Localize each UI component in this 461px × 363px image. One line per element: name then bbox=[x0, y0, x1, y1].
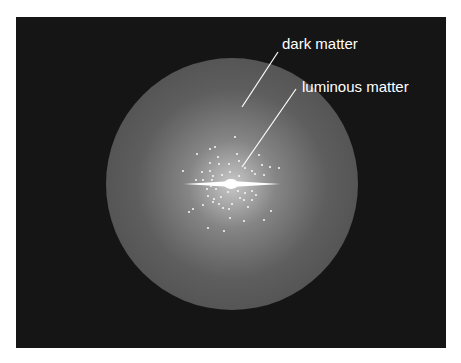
star-dot bbox=[269, 166, 271, 168]
star-dot bbox=[251, 190, 253, 192]
star-dot bbox=[255, 194, 257, 196]
star-dot bbox=[195, 179, 197, 181]
star-dot bbox=[209, 170, 211, 172]
star-dot bbox=[211, 179, 213, 181]
dark-matter-halo-diagram: dark matter luminous matter bbox=[0, 0, 461, 363]
galactic-bulge bbox=[224, 179, 238, 189]
star-dot bbox=[207, 227, 209, 229]
star-dot bbox=[236, 153, 238, 155]
star-dot bbox=[209, 148, 211, 150]
star-dot bbox=[201, 171, 203, 173]
luminous-matter-label: luminous matter bbox=[302, 78, 409, 95]
star-dot bbox=[188, 211, 190, 213]
star-dot bbox=[220, 196, 222, 198]
star-dot bbox=[251, 170, 253, 172]
star-dot bbox=[243, 220, 245, 222]
dark-matter-label: dark matter bbox=[282, 35, 358, 52]
star-dot bbox=[247, 206, 249, 208]
star-dot bbox=[218, 203, 220, 205]
star-dot bbox=[263, 219, 265, 221]
star-dot bbox=[196, 153, 198, 155]
star-dot bbox=[238, 175, 240, 177]
star-dot bbox=[214, 146, 216, 148]
star-dot bbox=[192, 208, 194, 210]
star-dot bbox=[202, 179, 204, 181]
star-dot bbox=[206, 188, 208, 190]
star-dot bbox=[212, 201, 214, 203]
star-dot bbox=[270, 210, 272, 212]
star-dot bbox=[228, 208, 230, 210]
star-dot bbox=[217, 156, 219, 158]
star-dot bbox=[238, 160, 240, 162]
star-dot bbox=[213, 198, 215, 200]
star-dot bbox=[258, 154, 260, 156]
star-dot bbox=[263, 174, 265, 176]
star-dot bbox=[182, 170, 184, 172]
star-dot bbox=[229, 217, 231, 219]
star-dot bbox=[215, 188, 217, 190]
star-dot bbox=[278, 167, 280, 169]
star-dot bbox=[254, 173, 256, 175]
star-dot bbox=[239, 197, 241, 199]
star-dot bbox=[244, 167, 246, 169]
star-dot bbox=[237, 190, 239, 192]
star-dot bbox=[234, 136, 236, 138]
star-dot bbox=[227, 191, 229, 193]
star-dot bbox=[243, 199, 245, 201]
star-dot bbox=[261, 164, 263, 166]
star-dot bbox=[212, 175, 214, 177]
star-dot bbox=[222, 207, 224, 209]
star-dot bbox=[223, 230, 225, 232]
star-dot bbox=[231, 203, 233, 205]
star-dot bbox=[221, 174, 223, 176]
star-dot bbox=[209, 162, 211, 164]
star-dot bbox=[244, 192, 246, 194]
star-dot bbox=[228, 163, 230, 165]
star-dot bbox=[251, 199, 253, 201]
star-dot bbox=[207, 195, 209, 197]
star-dot bbox=[202, 204, 204, 206]
star-dot bbox=[218, 163, 220, 165]
star-dot bbox=[229, 171, 231, 173]
